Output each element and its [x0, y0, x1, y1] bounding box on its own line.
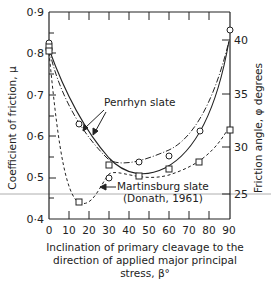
penrhyn-label: Penrhyn slate	[104, 96, 175, 108]
right-axis-title: Friction angle, φ degrees	[252, 63, 264, 193]
svg-text:30: 30	[102, 224, 115, 236]
svg-text:25: 25	[234, 188, 248, 201]
svg-text:10: 10	[62, 224, 75, 236]
left-axis-title: Coefficient of friction, μ	[6, 66, 18, 190]
x-axis-title-line-1: Inclination of primary cleavage to the	[40, 241, 250, 254]
svg-text:0·6: 0·6	[27, 130, 45, 143]
martinsburg-source: (Donath, 1961)	[123, 192, 203, 204]
svg-text:40: 40	[122, 224, 135, 236]
penrhyn-arrows	[83, 110, 106, 135]
bottom-tick-labels: 0 10 20 30 40 50 60 70 80 90	[46, 224, 236, 236]
svg-text:35: 35	[234, 88, 248, 101]
right-tick-labels: 25 30 35 40	[234, 34, 248, 201]
svg-text:0: 0	[46, 224, 53, 236]
martinsburg-label: Martinsburg slate	[117, 180, 209, 192]
x-axis-title: Inclination of primary cleavage to the d…	[40, 241, 250, 280]
top-axis-ticks	[69, 12, 209, 20]
bottom-axis-ticks	[69, 211, 209, 219]
svg-text:90: 90	[222, 224, 235, 236]
martinsburg-arrow	[100, 184, 116, 190]
svg-text:0·9: 0·9	[27, 6, 45, 19]
svg-text:20: 20	[82, 224, 95, 236]
svg-text:60: 60	[162, 224, 175, 236]
svg-text:0·5: 0·5	[27, 171, 45, 184]
left-tick-labels: 0·4 0·5 0·6 0·7 0·8 0·9	[27, 6, 45, 226]
x-axis-title-line-2: direction of applied major principal	[40, 254, 250, 267]
svg-text:30: 30	[234, 141, 248, 154]
svg-text:0·7: 0·7	[27, 89, 45, 102]
svg-text:50: 50	[142, 224, 155, 236]
right-axis-ticks	[222, 40, 230, 194]
svg-text:80: 80	[202, 224, 215, 236]
svg-text:0·8: 0·8	[27, 47, 45, 60]
svg-text:0·4: 0·4	[27, 213, 45, 226]
x-axis-title-line-3: stress, β°	[40, 267, 250, 280]
svg-text:70: 70	[182, 224, 195, 236]
svg-text:40: 40	[234, 34, 248, 47]
